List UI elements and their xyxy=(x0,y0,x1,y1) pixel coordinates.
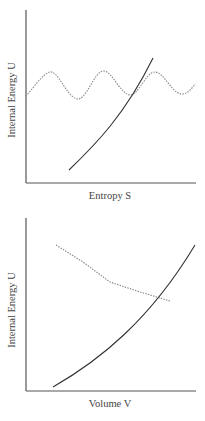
x-axis-label: Volume V xyxy=(89,398,132,409)
x-axis-label: Entropy S xyxy=(89,190,131,201)
y-axis-label: Internal Energy U xyxy=(6,62,17,138)
convex-series xyxy=(69,58,153,170)
figure: Entropy S Internal Energy U Volume V Int… xyxy=(0,0,205,421)
increasing-series xyxy=(53,245,195,387)
chart-entropy: Entropy S Internal Energy U xyxy=(6,10,196,201)
y-axis-label: Internal Energy U xyxy=(6,272,17,348)
chart-volume: Volume V Internal Energy U xyxy=(6,218,196,409)
oscillating-series xyxy=(26,71,195,99)
decreasing-series xyxy=(56,245,170,301)
